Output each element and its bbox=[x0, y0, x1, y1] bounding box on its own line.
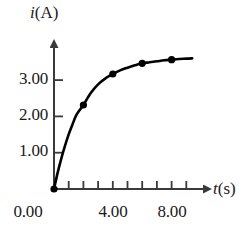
y-axis-unit: (A) bbox=[35, 3, 59, 22]
data-point-0 bbox=[50, 185, 57, 192]
y-axis-title: i(A) bbox=[30, 4, 58, 21]
data-point-markers bbox=[50, 56, 175, 193]
data-point-2 bbox=[109, 70, 116, 77]
y-tick-label-1: 1.00 bbox=[2, 142, 48, 159]
x-axis-title: t(s) bbox=[213, 180, 236, 197]
y-axis-ticks bbox=[54, 80, 63, 153]
x-tick-label-4: 4.00 bbox=[87, 203, 139, 220]
data-point-3 bbox=[139, 60, 146, 67]
x-tick-label-8: 8.00 bbox=[146, 203, 198, 220]
data-curve bbox=[54, 58, 192, 189]
x-axis-unit: (s) bbox=[218, 179, 236, 198]
y-tick-label-3: 3.00 bbox=[2, 70, 48, 87]
current-vs-time-chart: i(A) t(s) 3.00 2.00 1.00 0.00 4.00 8.00 bbox=[0, 0, 244, 227]
data-point-4 bbox=[168, 56, 175, 63]
y-tick-label-2: 2.00 bbox=[2, 106, 48, 123]
data-point-1 bbox=[80, 101, 87, 108]
x-tick-label-0: 0.00 bbox=[2, 203, 54, 220]
x-axis-ticks bbox=[69, 181, 187, 189]
